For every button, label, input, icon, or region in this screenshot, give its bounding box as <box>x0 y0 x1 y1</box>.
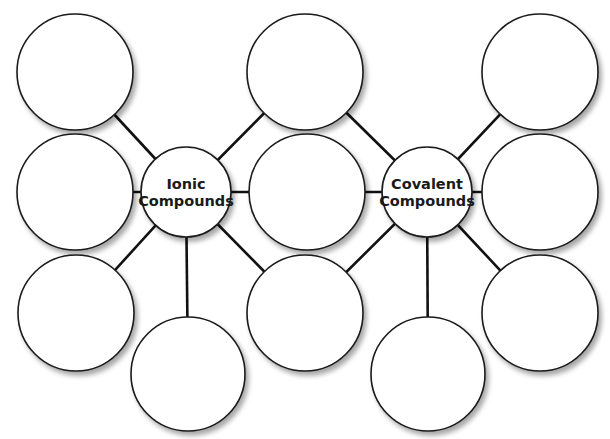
hub-label-line: Compounds <box>379 193 475 209</box>
bubble-covalent-top-right[interactable] <box>482 14 598 130</box>
bubble-covalent-bottom[interactable] <box>371 317 485 431</box>
bubble-circle[interactable] <box>17 134 133 250</box>
bubble-ionic-bottom[interactable] <box>131 317 245 431</box>
hub-label-line: Covalent <box>391 176 463 192</box>
bubble-circle[interactable] <box>482 134 598 250</box>
diagram-canvas: IonicCompoundsCovalentCompounds <box>0 0 610 439</box>
bubble-circle[interactable] <box>17 14 133 130</box>
bubble-circle[interactable] <box>482 255 598 371</box>
bubble-ionic-mid-left[interactable] <box>17 134 133 250</box>
double-bubble-map: IonicCompoundsCovalentCompounds <box>0 0 610 439</box>
bubble-circle[interactable] <box>247 14 363 130</box>
bubble-group <box>17 14 598 431</box>
hub-label-line: Compounds <box>138 193 234 209</box>
bubble-circle[interactable] <box>249 134 365 250</box>
bubble-shared-top[interactable] <box>247 14 363 130</box>
bubble-ionic-top-left[interactable] <box>17 14 133 130</box>
bubble-circle[interactable] <box>482 14 598 130</box>
bubble-shared-bottom[interactable] <box>247 255 363 371</box>
bubble-circle[interactable] <box>18 255 134 371</box>
bubble-covalent-mid-right[interactable] <box>482 134 598 250</box>
hub-label-line: Ionic <box>166 176 205 192</box>
bubble-circle[interactable] <box>247 255 363 371</box>
bubble-covalent-bottom-right[interactable] <box>482 255 598 371</box>
bubble-shared-mid[interactable] <box>249 134 365 250</box>
hub-ionic: IonicCompounds <box>138 147 234 237</box>
bubble-circle[interactable] <box>131 317 245 431</box>
bubble-ionic-bottom-left[interactable] <box>18 255 134 371</box>
bubble-circle[interactable] <box>371 317 485 431</box>
